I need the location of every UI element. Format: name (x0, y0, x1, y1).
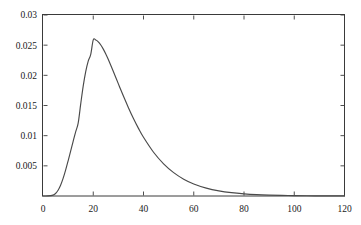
x-tick-label: 40 (139, 204, 149, 214)
plot-background (0, 0, 361, 225)
y-tick-label: 0.02 (20, 71, 37, 81)
x-tick-label: 20 (89, 204, 99, 214)
x-tick-label: 120 (337, 204, 352, 214)
x-tick-label: 100 (287, 204, 302, 214)
y-tick-label: 0.01 (20, 131, 37, 141)
x-tick-label: 0 (41, 204, 46, 214)
x-tick-label: 80 (239, 204, 249, 214)
y-tick-label: 0.03 (20, 10, 37, 20)
y-tick-label: 0.015 (16, 101, 38, 111)
distribution-plot: 0.0050.010.0150.020.0250.03 020406080100… (0, 0, 361, 225)
x-tick-label: 60 (189, 204, 199, 214)
y-tick-label: 0.025 (16, 41, 38, 51)
chart-figure: 0.0050.010.0150.020.0250.03 020406080100… (0, 0, 361, 225)
y-tick-label: 0.005 (16, 161, 38, 171)
